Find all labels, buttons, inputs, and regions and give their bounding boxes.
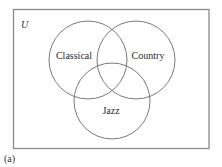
set-label-country: Country bbox=[132, 50, 165, 61]
set-label-classical: Classical bbox=[56, 50, 92, 61]
set-label-jazz: Jazz bbox=[102, 105, 120, 116]
figure-caption: (a) bbox=[4, 153, 15, 164]
universe-label: U bbox=[21, 19, 29, 30]
venn-diagram: U Classical Country Jazz bbox=[0, 0, 222, 167]
